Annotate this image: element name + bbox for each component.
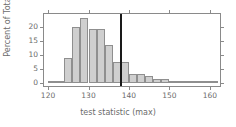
histogram-bar — [129, 74, 137, 82]
x-axis-tick-top — [89, 10, 90, 14]
histogram-bar — [178, 81, 186, 83]
y-axis-tick — [40, 83, 44, 84]
x-axis-tick-top — [210, 10, 211, 14]
histogram-bar — [194, 81, 202, 83]
y-axis-tick — [40, 41, 44, 42]
x-axis-tick — [210, 86, 211, 90]
y-axis-tick — [40, 69, 44, 70]
y-axis-tick-label: 10 — [28, 51, 38, 59]
histogram-bar — [72, 27, 80, 83]
x-axis-tick — [169, 86, 170, 90]
x-axis-tick — [89, 86, 90, 90]
plot-panel: 05101520120130140150160 — [43, 13, 221, 87]
histogram-figure: Percent of Total 05101520120130140150160… — [0, 0, 236, 127]
x-axis-tick-label: 120 — [41, 92, 55, 100]
y-axis-tick — [40, 27, 44, 28]
y-axis-tick-right — [220, 69, 224, 70]
histogram-bar — [48, 81, 56, 83]
x-axis-label: test statistic (max) — [0, 108, 236, 117]
y-axis-tick-right — [220, 27, 224, 28]
histogram-bar — [89, 29, 97, 82]
y-axis-label: Percent of Total — [2, 0, 14, 66]
histogram-bar — [202, 81, 210, 83]
x-axis-tick-label: 150 — [162, 92, 176, 100]
histogram-bar — [80, 18, 88, 83]
histogram-bar — [121, 62, 129, 83]
histogram-bar — [97, 29, 105, 82]
histogram-bar — [161, 79, 169, 82]
y-axis-tick-label: 0 — [33, 79, 38, 87]
histogram-bar — [137, 74, 145, 82]
y-axis-tick-label: 15 — [28, 37, 38, 45]
observed-statistic-line-icon — [120, 14, 122, 86]
x-axis-tick-top — [169, 10, 170, 14]
histogram-bar — [64, 58, 72, 83]
x-axis-tick — [129, 86, 130, 90]
x-axis-tick-label: 140 — [122, 92, 136, 100]
x-axis-tick-label: 130 — [81, 92, 95, 100]
histogram-bar — [169, 81, 177, 83]
y-axis-tick — [40, 55, 44, 56]
x-axis-tick-top — [129, 10, 130, 14]
x-axis-tick — [48, 86, 49, 90]
y-axis-tick-right — [220, 55, 224, 56]
histogram-bar — [105, 45, 113, 83]
histogram-bar — [56, 81, 64, 83]
x-axis-tick-top — [48, 10, 49, 14]
y-axis-tick-label: 5 — [33, 65, 38, 73]
y-axis-tick-label: 20 — [28, 23, 38, 31]
histogram-bar — [210, 81, 218, 83]
histogram-bar — [186, 81, 194, 83]
x-axis-tick-label: 160 — [203, 92, 217, 100]
y-axis-tick-right — [220, 83, 224, 84]
histogram-bar — [153, 79, 161, 82]
histogram-bar — [145, 76, 153, 82]
plot-area — [44, 14, 220, 86]
y-axis-tick-right — [220, 41, 224, 42]
